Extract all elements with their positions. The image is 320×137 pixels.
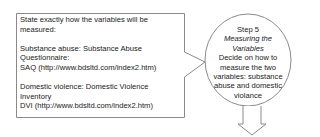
- substance-line3: SAQ (http://www.bdsltd.com/index2.htm): [20, 63, 182, 73]
- step-title-line2: Variables: [209, 44, 287, 53]
- step-title-line1: Measuring the: [209, 34, 287, 43]
- callout-box-text: State exactly how the variables will be …: [20, 15, 182, 111]
- step-desc-line3: variables: substance: [209, 72, 287, 81]
- violence-line3: DVI (http://www.bdsltd.com/index2.htm): [20, 101, 182, 111]
- step-number: Step 5: [209, 25, 287, 34]
- violence-line2: Inventory: [20, 92, 182, 102]
- intro-text: State exactly how the variables will be …: [20, 15, 182, 34]
- step-text: Step 5 Measuring the Variables Decide on…: [209, 25, 287, 100]
- down-arrow-icon: [238, 106, 266, 135]
- violence-line1: Domestic violence: Domestic Violence: [20, 82, 182, 92]
- step-desc-line2: measure the two: [209, 63, 287, 72]
- step-desc-line1: Decide on how to: [209, 53, 287, 62]
- substance-line1: Substance abuse: Substance Abuse: [20, 44, 182, 54]
- substance-line2: Questionnaire:: [20, 53, 182, 63]
- step-desc-line5: violance: [209, 91, 287, 100]
- step-desc-line4: abuse and domestic: [209, 81, 287, 90]
